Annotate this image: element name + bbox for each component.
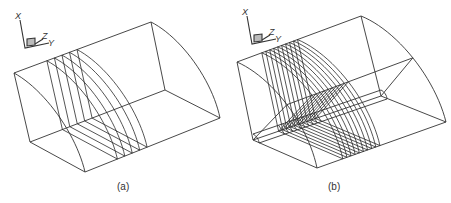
axis-cube-icon — [254, 34, 262, 42]
z-axis-label: Z — [41, 31, 48, 41]
y-axis-label: Y — [48, 38, 55, 48]
front-bottom-edge — [30, 142, 85, 172]
panel-b-caption: (b) — [328, 181, 340, 192]
panel-a-diagram: XZY — [14, 11, 220, 172]
z-axis-label: Z — [268, 27, 275, 37]
ring-slice — [69, 52, 139, 150]
front-vertical-edge — [14, 73, 30, 142]
axis-triad: XZY — [14, 11, 55, 48]
front-bottom-edge — [253, 140, 317, 168]
side-bottom-edge — [317, 122, 446, 168]
front-vertical-edge — [237, 62, 253, 140]
ring-radial-lines — [77, 50, 147, 148]
ring-radial-lines — [69, 52, 139, 150]
axis-cube-icon — [27, 38, 35, 46]
inner-rod-side — [259, 99, 387, 143]
ring-slice — [77, 50, 147, 148]
figure-canvas: XZY XZY (a) (b) — [0, 0, 451, 203]
back-vertical-edge — [361, 16, 381, 96]
panel-a-caption: (a) — [117, 181, 129, 192]
back-bottom-edge — [165, 90, 220, 118]
y-axis-label: Y — [275, 34, 282, 44]
back-bottom-edge — [381, 96, 446, 122]
front-arc-edge — [14, 73, 85, 172]
back-arc-edge — [151, 22, 220, 118]
panel-b-diagram: XZY — [237, 7, 446, 168]
axis-triad: XZY — [241, 7, 282, 44]
top-ridge-edge — [14, 22, 151, 73]
x-axis-label: X — [14, 11, 22, 21]
inner-rod-top — [253, 90, 381, 134]
x-axis-label: X — [241, 7, 249, 17]
back-vertical-edge — [151, 22, 165, 90]
